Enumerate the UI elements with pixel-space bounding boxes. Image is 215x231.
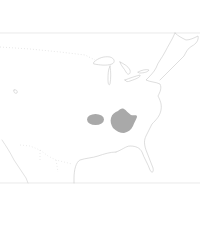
eastern-range-patch (111, 109, 137, 133)
range-map (0, 0, 215, 231)
gulf-coastline (74, 152, 116, 183)
interior-borders (20, 145, 72, 172)
great-lakes-outline (94, 57, 149, 85)
atlantic-coastline (116, 33, 175, 172)
small-lake-feature (14, 90, 18, 94)
maritime-coastline (160, 33, 198, 80)
map-canvas (0, 0, 215, 231)
northern-border (0, 47, 95, 60)
rio-grande-border (2, 140, 28, 183)
western-range-patch (87, 114, 104, 125)
